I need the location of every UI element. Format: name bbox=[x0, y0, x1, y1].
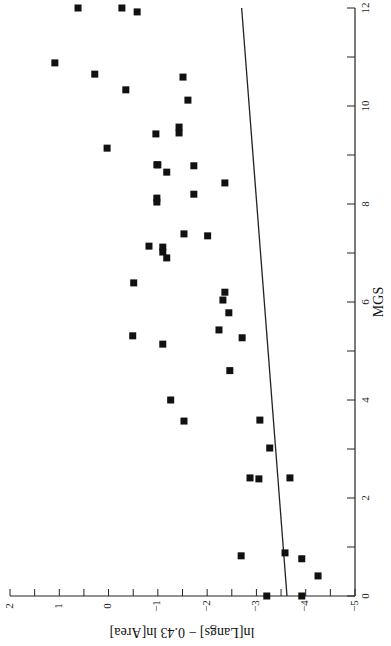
mgs-tick-label: 4 bbox=[359, 397, 371, 403]
data-point bbox=[190, 191, 197, 198]
x-axis-title: MGS bbox=[371, 287, 386, 317]
data-point bbox=[315, 572, 322, 579]
value-tick-label: −5 bbox=[348, 600, 360, 612]
data-point bbox=[219, 297, 226, 304]
data-point bbox=[91, 71, 98, 78]
data-point bbox=[180, 230, 187, 237]
value-tick-label: 1 bbox=[52, 603, 64, 609]
data-point bbox=[266, 445, 273, 452]
data-point bbox=[118, 5, 125, 12]
mgs-tick-label: 2 bbox=[359, 495, 371, 501]
data-point bbox=[129, 332, 136, 339]
y-axis-title: ln[Langs] − 0.43 ln[Area] bbox=[110, 625, 255, 640]
data-point bbox=[298, 555, 305, 562]
data-point bbox=[298, 593, 305, 600]
data-point bbox=[152, 130, 159, 137]
value-tick-label: −1 bbox=[150, 600, 162, 612]
mgs-tick-label: 6 bbox=[359, 299, 371, 305]
value-tick-label: 2 bbox=[3, 603, 15, 609]
data-point bbox=[238, 552, 245, 559]
data-point bbox=[263, 593, 270, 600]
data-point bbox=[190, 162, 197, 169]
scatter-chart: 024681012 210−1−2−3−4−5 MGS ln[Langs] − … bbox=[0, 0, 391, 646]
value-tick-label: −4 bbox=[298, 600, 310, 612]
data-point bbox=[286, 474, 293, 481]
data-point bbox=[215, 326, 222, 333]
data-point bbox=[145, 243, 152, 250]
data-point bbox=[153, 199, 160, 206]
data-point bbox=[221, 289, 228, 296]
data-point bbox=[159, 341, 166, 348]
data-point bbox=[204, 232, 211, 239]
value-tick-label: 0 bbox=[101, 603, 113, 609]
data-point bbox=[179, 74, 186, 81]
data-point bbox=[75, 5, 82, 12]
value-ticks: 210−1−2−3−4−5 bbox=[3, 589, 360, 612]
data-point bbox=[184, 97, 191, 104]
value-tick-label: −2 bbox=[200, 600, 212, 612]
data-point bbox=[163, 169, 170, 176]
data-point bbox=[104, 145, 111, 152]
data-point bbox=[221, 179, 228, 186]
regression-line bbox=[242, 8, 287, 596]
data-point bbox=[256, 417, 263, 424]
data-point bbox=[226, 367, 233, 374]
mgs-tick-label: 8 bbox=[359, 201, 371, 207]
data-point bbox=[134, 8, 141, 15]
data-point bbox=[130, 279, 137, 286]
data-point bbox=[167, 397, 174, 404]
mgs-tick-label: 0 bbox=[359, 593, 371, 599]
mgs-tick-label: 10 bbox=[359, 100, 371, 112]
data-point bbox=[154, 161, 161, 168]
data-point bbox=[122, 86, 129, 93]
axes: 024681012 210−1−2−3−4−5 MGS ln[Langs] − … bbox=[3, 3, 386, 641]
value-tick-label: −3 bbox=[249, 600, 261, 612]
data-point bbox=[163, 254, 170, 261]
data-point bbox=[180, 418, 187, 425]
data-point bbox=[247, 474, 254, 481]
data-point bbox=[255, 475, 262, 482]
data-point bbox=[51, 59, 58, 66]
data-point bbox=[176, 129, 183, 136]
data-point bbox=[282, 549, 289, 556]
data-point bbox=[239, 334, 246, 341]
data-point bbox=[225, 309, 232, 316]
mgs-ticks: 024681012 bbox=[347, 3, 371, 599]
mgs-tick-label: 12 bbox=[359, 3, 371, 14]
